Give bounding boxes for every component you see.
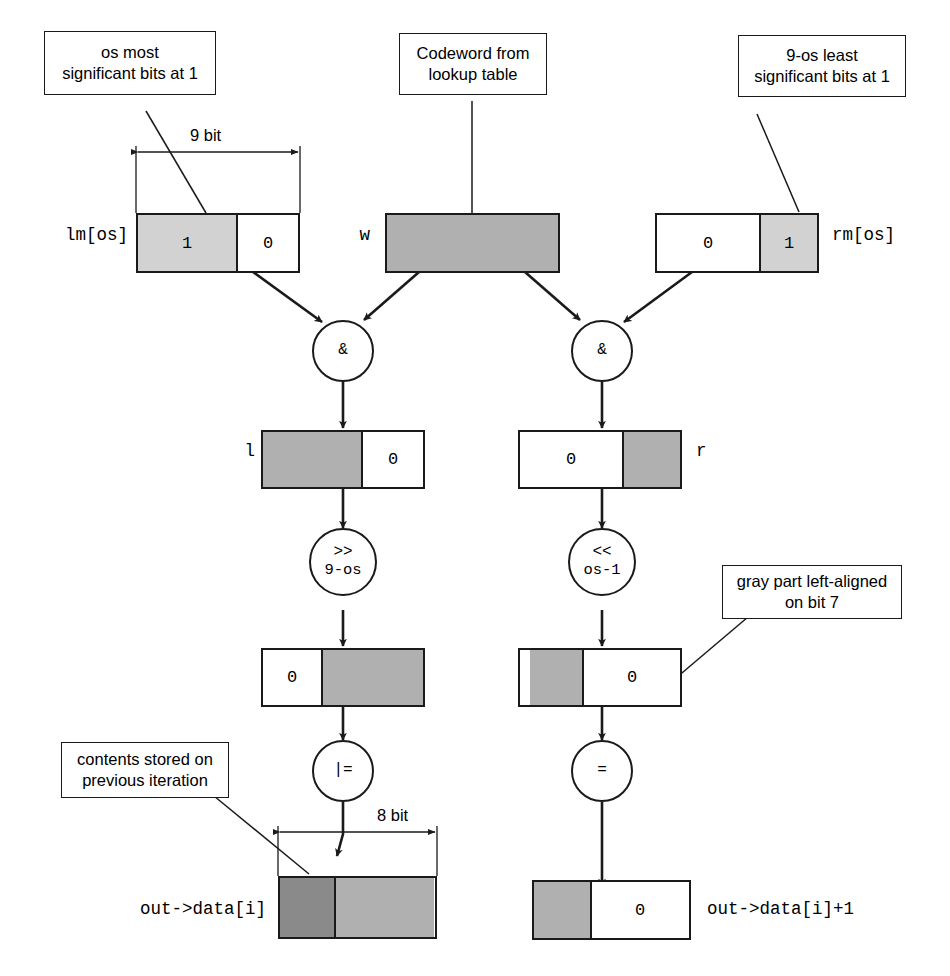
register-lm: 1 0 [136,213,300,273]
callout-prev-note: contents stored on previous iteration [61,742,229,798]
operator-shift-right-amount: 9-os [324,562,361,579]
register-label-l: l [200,441,255,461]
register-out-data-i [278,876,437,939]
operator-and-right: & [571,320,633,382]
register-r-shifted-cell-2: 0 [584,650,680,705]
register-label-w: w [310,225,370,245]
callout-lm-note-text: os most significant bits at 1 [62,42,198,84]
register-r: 0 [518,430,682,489]
operator-shift-right: >> 9-os [309,528,377,596]
register-l-shifted-cell-0: 0 [263,650,323,705]
register-r-shifted-cell-1 [530,650,584,705]
callout-rm-note-text: 9-os least significant bits at 1 [754,45,890,87]
leader-line-prev [214,796,309,874]
register-out-data-i1: 0 [532,880,691,940]
register-l-shifted: 0 [261,648,425,707]
register-out-data-i-cell-1 [336,878,434,937]
register-r-shifted: 0 [518,648,682,707]
callout-w-note-text: Codeword from lookup table [417,43,530,85]
operator-assign-symbol: = [597,762,607,780]
diagram-vector-layer [0,0,950,976]
register-l: 0 [261,430,425,489]
register-out-data-i1-cell-1: 0 [592,882,688,938]
register-r-cell-0: 0 [520,432,624,487]
dimension-label-9bit: 9 bit [190,126,221,145]
register-label-r: r [696,441,707,461]
operator-or-assign-symbol: |= [333,762,352,780]
register-label-out-data-i1: out->data[i]+1 [707,899,854,919]
leader-line-align [676,617,748,678]
arrow-lm-to-and [253,272,322,322]
diagram-canvas: os most significant bits at 1 Codeword f… [0,0,950,976]
register-r-cell-1 [624,432,680,487]
callout-align-note: gray part left-aligned on bit 7 [722,565,902,619]
callout-lm-note: os most significant bits at 1 [44,31,216,95]
leader-line-rm [757,114,799,212]
register-out-data-i-cell-0 [280,878,336,937]
operator-shift-right-symbol: >> [333,544,352,562]
operator-or-assign: |= [312,740,374,802]
register-w-cell-0 [387,215,558,271]
arrow-oreq-to-out [337,802,343,856]
arrow-rm-to-and [624,272,692,322]
register-r-shifted-cell-0 [520,650,530,705]
register-rm-cell-0: 0 [657,215,761,271]
operator-and-right-symbol: & [597,342,607,360]
callout-w-note: Codeword from lookup table [399,33,547,95]
callout-align-note-text: gray part left-aligned on bit 7 [737,571,887,613]
dimension-label-8bit: 8 bit [377,806,408,825]
operator-shift-left: << os-1 [568,528,636,596]
arrow-w-to-and-right [525,272,580,320]
operator-and-left: & [312,320,374,382]
arrow-w-to-and-left [364,272,419,320]
register-rm: 0 1 [655,213,819,273]
register-out-data-i1-cell-0 [534,882,592,938]
register-l-cell-0 [263,432,363,487]
register-l-cell-1: 0 [363,432,423,487]
register-lm-cell-1: 0 [238,215,298,271]
register-rm-cell-1: 1 [761,215,817,271]
register-w [385,213,560,273]
register-l-shifted-cell-1 [323,650,423,705]
register-label-rm: rm[os] [832,225,895,245]
register-label-out-data-i: out->data[i] [100,899,266,919]
register-label-lm: lm[os] [30,225,128,245]
callout-prev-note-text: contents stored on previous iteration [77,749,213,791]
register-lm-cell-0: 1 [138,215,238,271]
operator-assign: = [571,740,633,802]
operator-shift-left-amount: os-1 [583,562,620,579]
callout-rm-note: 9-os least significant bits at 1 [738,35,906,97]
operator-and-left-symbol: & [338,342,348,360]
operator-shift-left-symbol: << [592,544,611,562]
